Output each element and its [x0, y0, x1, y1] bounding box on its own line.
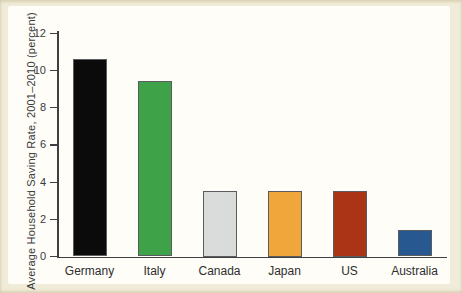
x-axis-line	[57, 257, 447, 259]
bar-germany	[73, 59, 107, 256]
figure-background: Average Household Saving Rate, 2001–2010…	[0, 0, 462, 293]
y-tick-label: 6	[18, 138, 46, 151]
y-tick	[50, 33, 57, 34]
bar-australia	[398, 230, 432, 256]
y-tick-label: 10	[18, 64, 46, 77]
y-tick	[50, 144, 57, 145]
x-label-australia: Australia	[380, 264, 450, 278]
y-tick	[50, 107, 57, 108]
y-tick	[50, 256, 57, 257]
y-tick-label: 0	[18, 250, 46, 263]
x-label-us: US	[315, 264, 385, 278]
x-label-germany: Germany	[55, 264, 125, 278]
y-tick	[50, 182, 57, 183]
bar-italy	[138, 81, 172, 256]
y-tick	[50, 70, 57, 71]
x-label-japan: Japan	[250, 264, 320, 278]
y-tick-label: 12	[18, 27, 46, 40]
x-label-canada: Canada	[185, 264, 255, 278]
y-tick	[50, 219, 57, 220]
y-tick-label: 2	[18, 213, 46, 226]
chart-panel: Average Household Saving Rate, 2001–2010…	[8, 6, 450, 284]
y-axis-line	[57, 31, 59, 257]
y-tick-label: 8	[18, 101, 46, 114]
x-label-italy: Italy	[120, 264, 190, 278]
bar-canada	[203, 191, 237, 256]
bar-japan	[268, 191, 302, 256]
y-tick-label: 4	[18, 176, 46, 189]
bar-us	[333, 191, 367, 256]
